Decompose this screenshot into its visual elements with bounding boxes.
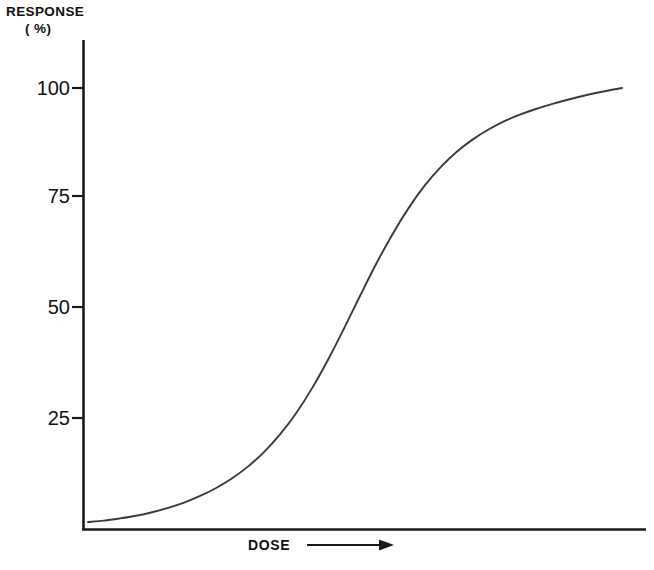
arrow-right-icon — [379, 540, 394, 551]
response-curve — [88, 88, 622, 522]
dose-response-chart: RESPONSE ( %) 100 75 50 25 DOSE — [0, 0, 654, 570]
plot-svg — [0, 0, 654, 570]
